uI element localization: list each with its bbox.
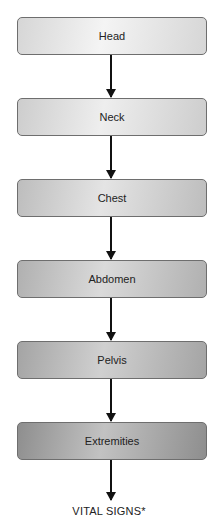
arrow-down-icon xyxy=(110,136,112,178)
node-label: Neck xyxy=(99,111,124,123)
node-extremities: Extremities xyxy=(17,422,207,460)
node-neck: Neck xyxy=(17,98,207,136)
arrow-down-icon xyxy=(110,298,112,340)
node-head: Head xyxy=(17,17,207,55)
node-label: Abdomen xyxy=(88,273,135,285)
node-pelvis: Pelvis xyxy=(17,341,207,379)
node-label: Pelvis xyxy=(97,354,126,366)
node-chest: Chest xyxy=(17,179,207,217)
arrow-down-icon xyxy=(110,217,112,259)
arrow-down-icon xyxy=(110,55,112,97)
arrow-down-icon xyxy=(110,460,112,500)
node-label: Chest xyxy=(98,192,127,204)
node-abdomen: Abdomen xyxy=(17,260,207,298)
node-label: Head xyxy=(99,30,125,42)
arrow-down-icon xyxy=(110,379,112,421)
node-label: Extremities xyxy=(85,435,139,447)
vital-signs-label: VITAL SIGNS* xyxy=(0,505,218,517)
